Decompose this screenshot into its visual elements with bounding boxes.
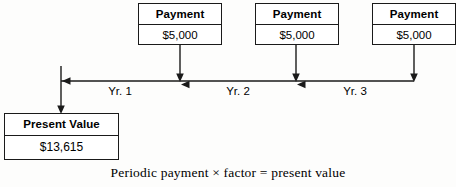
payment-box-1-amount: $5,000 bbox=[139, 25, 221, 45]
payment-box-3: Payment $5,000 bbox=[372, 3, 456, 45]
arrow-left-icon-year-3 bbox=[297, 81, 306, 88]
formula-caption: Periodic payment × factor = present valu… bbox=[0, 165, 456, 181]
payment-box-2-header: Payment bbox=[256, 4, 338, 25]
payment-box-1-header: Payment bbox=[139, 4, 221, 25]
payment-box-1: Payment $5,000 bbox=[138, 3, 222, 45]
payment-box-3-header: Payment bbox=[373, 4, 455, 25]
payment-box-3-amount: $5,000 bbox=[373, 25, 455, 45]
year-label-1: Yr. 1 bbox=[92, 85, 148, 97]
arrow-left-icon-year-1 bbox=[62, 77, 71, 84]
year-label-3: Yr. 3 bbox=[327, 85, 383, 97]
payment-box-2: Payment $5,000 bbox=[255, 3, 339, 45]
present-value-box: Present Value $13,615 bbox=[4, 113, 119, 160]
present-value-annuity-diagram: Payment $5,000 Payment $5,000 Payment $5… bbox=[0, 0, 456, 187]
present-value-amount: $13,615 bbox=[5, 136, 118, 160]
present-value-header: Present Value bbox=[5, 114, 118, 136]
year-label-2: Yr. 2 bbox=[210, 85, 266, 97]
arrow-left-icon-year-2 bbox=[181, 81, 190, 88]
payment-box-2-amount: $5,000 bbox=[256, 25, 338, 45]
